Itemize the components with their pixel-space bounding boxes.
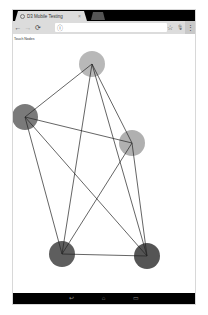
microphone-icon[interactable]: 🎙 [175, 21, 185, 34]
reload-icon[interactable]: ⟳ [33, 21, 43, 34]
home-nav-icon[interactable]: ⌂ [102, 293, 106, 304]
address-bar[interactable]: ⓘ [55, 23, 167, 32]
browser-tab[interactable]: D3 Mobile Testing × [15, 11, 87, 21]
graph-edge [62, 143, 132, 254]
new-tab-button[interactable] [91, 12, 105, 20]
browser-toolbar: ← → ⟳ ⓘ ☆ 🎙 ⋮ [13, 21, 195, 34]
force-graph[interactable] [13, 34, 195, 293]
globe-icon [20, 14, 25, 19]
forward-icon[interactable]: → [23, 21, 33, 34]
info-icon[interactable]: ⓘ [57, 23, 63, 32]
graph-edge [25, 117, 132, 143]
graph-edge [62, 64, 92, 254]
graph-edge [132, 143, 147, 256]
recents-nav-icon[interactable]: ▭ [133, 293, 139, 304]
tab-strip: D3 Mobile Testing × [13, 10, 195, 21]
android-nav-bar: ↩ ⌂ ▭ [13, 293, 195, 304]
back-icon[interactable]: ← [13, 21, 23, 34]
graph-edge [92, 64, 132, 143]
close-icon[interactable]: × [78, 13, 81, 19]
graph-edge [25, 64, 92, 117]
tab-title: D3 Mobile Testing [27, 14, 63, 19]
device-screen: D3 Mobile Testing × ← → ⟳ ⓘ ☆ 🎙 ⋮ Touch … [13, 10, 195, 304]
back-nav-icon[interactable]: ↩ [69, 293, 74, 304]
page-content: Touch Nodes [13, 34, 195, 293]
bookmark-star-icon[interactable]: ☆ [165, 21, 175, 34]
menu-icon[interactable]: ⋮ [185, 21, 195, 34]
graph-edge [92, 64, 147, 256]
